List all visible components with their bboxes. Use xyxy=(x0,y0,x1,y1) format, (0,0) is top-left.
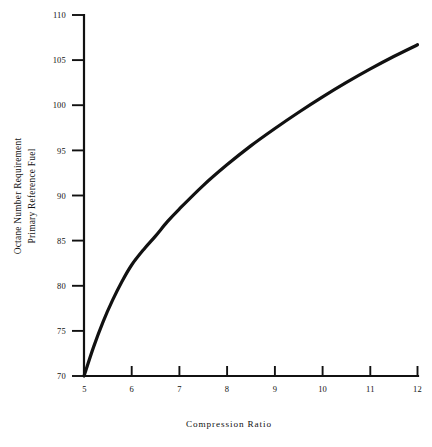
x-axis-tick-labels: 5 6 7 8 9 10 11 12 xyxy=(82,384,422,394)
y-axis-tick-labels: 110 105 100 95 90 85 80 75 70 xyxy=(53,10,66,381)
x-tick-label: 8 xyxy=(225,384,229,394)
y-tick-label: 85 xyxy=(57,236,66,246)
y-tick-label: 80 xyxy=(57,281,66,291)
y-tick-label: 110 xyxy=(53,10,66,20)
y-axis-title-line1: Octane Number Requirement xyxy=(13,138,23,255)
x-tick-label: 7 xyxy=(177,384,181,394)
figure-canvas: 110 105 100 95 90 85 80 75 70 5 6 7 8 9 xyxy=(0,0,432,447)
x-axis-ticks xyxy=(132,366,418,376)
x-tick-label: 11 xyxy=(366,384,375,394)
x-tick-label: 9 xyxy=(273,384,277,394)
y-tick-label: 100 xyxy=(53,100,66,110)
x-tick-label: 6 xyxy=(129,384,133,394)
x-tick-label: 10 xyxy=(318,384,327,394)
x-axis-title: Compression Ratio xyxy=(186,419,272,429)
onr-curve xyxy=(84,45,418,376)
x-tick-label: 12 xyxy=(413,384,422,394)
chart-plot: 110 105 100 95 90 85 80 75 70 5 6 7 8 9 xyxy=(0,0,432,447)
y-axis-ticks xyxy=(72,15,84,376)
y-tick-label: 75 xyxy=(57,326,66,336)
y-axis-title-line2: Primary Reference Fuel xyxy=(27,148,37,243)
y-tick-label: 105 xyxy=(53,55,66,65)
y-tick-label: 70 xyxy=(57,371,66,381)
y-tick-label: 95 xyxy=(57,146,66,156)
y-axis-title: Octane Number Requirement Primary Refere… xyxy=(13,138,37,255)
y-tick-label: 90 xyxy=(57,191,66,201)
x-tick-label: 5 xyxy=(82,384,86,394)
